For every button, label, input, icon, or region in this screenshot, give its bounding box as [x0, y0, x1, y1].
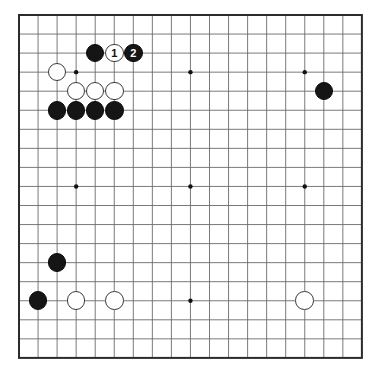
go-board-grid[interactable]: [0, 0, 378, 385]
star-point-icon: [188, 184, 192, 188]
go-stone-white[interactable]: [105, 82, 124, 101]
star-point-icon: [303, 184, 307, 188]
go-stone-black[interactable]: [86, 101, 105, 120]
go-stone-white[interactable]: [105, 291, 124, 310]
go-stone-black[interactable]: [124, 44, 143, 63]
go-board-diagram: 12: [0, 0, 378, 385]
star-point-icon: [74, 184, 78, 188]
go-stone-white[interactable]: [295, 291, 314, 310]
go-stone-black[interactable]: [67, 101, 86, 120]
star-point-icon: [188, 299, 192, 303]
star-point-icon: [74, 70, 78, 74]
go-stone-black[interactable]: [105, 101, 124, 120]
go-stone-white[interactable]: [105, 44, 124, 63]
star-point-icon: [188, 70, 192, 74]
go-stone-black[interactable]: [48, 101, 67, 120]
star-point-icon: [303, 70, 307, 74]
